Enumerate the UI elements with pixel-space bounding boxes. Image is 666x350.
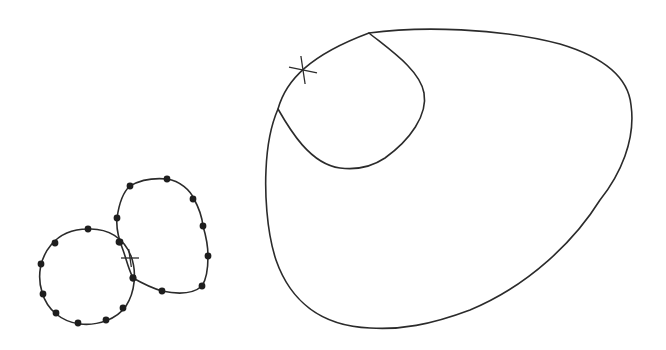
sample-point-dot <box>159 288 166 295</box>
sample-point-dot <box>38 261 45 268</box>
sample-point-dot <box>199 283 206 290</box>
sample-point-dot <box>205 253 212 260</box>
sample-point-dot <box>75 320 82 327</box>
sample-point-dot <box>114 215 121 222</box>
outer-region-curve <box>266 29 632 328</box>
sample-point-dot <box>40 291 47 298</box>
sample-point-dot <box>117 239 124 246</box>
sample-point-dot <box>120 305 127 312</box>
left-diagram <box>38 176 212 327</box>
sample-point-dot <box>103 317 110 324</box>
sample-point-dot <box>164 176 171 183</box>
inner-loop-curve <box>278 33 425 169</box>
sample-point-dot <box>85 226 92 233</box>
diagram-canvas <box>0 0 666 350</box>
sample-point-dot <box>52 240 59 247</box>
sample-point-dot <box>190 196 197 203</box>
sample-point-dot <box>200 223 207 230</box>
blob-sample-points <box>114 176 212 295</box>
sample-point-dot <box>127 183 134 190</box>
diagram-svg <box>0 0 666 350</box>
sample-point-dot <box>53 310 60 317</box>
sample-point-dot <box>130 275 137 282</box>
right-diagram <box>266 29 632 328</box>
